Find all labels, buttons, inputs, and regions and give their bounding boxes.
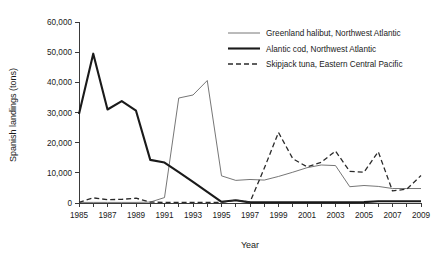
y-tick-label: 0 <box>67 199 72 208</box>
y-tick-label: 10,000 <box>47 169 72 178</box>
legend-label-1: Alantic cod, Northwest Atlantic <box>266 45 376 54</box>
series-line-1 <box>79 54 421 203</box>
x-axis-title: Year <box>241 240 259 250</box>
x-tick-label: 1999 <box>269 211 288 220</box>
x-tick-label: 2001 <box>298 211 317 220</box>
y-tick-label: 50,000 <box>47 48 72 57</box>
x-tick-label: 2007 <box>383 211 402 220</box>
x-tick-label: 1995 <box>212 211 231 220</box>
chart-figure: 010,00020,00030,00040,00050,00060,000 19… <box>0 0 441 255</box>
x-axis: 1985198719891991199319951997199920012003… <box>70 203 431 220</box>
x-tick-label: 2009 <box>412 211 431 220</box>
y-tick-label: 20,000 <box>47 139 72 148</box>
x-tick-label: 1987 <box>98 211 117 220</box>
y-tick-label: 30,000 <box>47 109 72 118</box>
y-tick-label: 40,000 <box>47 78 72 87</box>
x-tick-label: 1989 <box>127 211 146 220</box>
x-tick-label: 1993 <box>184 211 203 220</box>
x-tick-label: 1991 <box>155 211 174 220</box>
series-line-2 <box>79 132 421 202</box>
line-chart: 010,00020,00030,00040,00050,00060,000 19… <box>0 0 441 255</box>
x-tick-label: 2003 <box>326 211 345 220</box>
y-tick-label: 60,000 <box>47 18 72 27</box>
x-tick-label: 1997 <box>241 211 260 220</box>
chart-series-group <box>79 54 421 203</box>
chart-legend: Greenland halibut, Northwest AtlanticAla… <box>228 29 403 69</box>
x-tick-label: 1985 <box>70 211 89 220</box>
legend-label-2: Skipjack tuna, Eastern Central Pacific <box>266 60 403 69</box>
legend-label-0: Greenland halibut, Northwest Atlantic <box>266 29 401 38</box>
y-axis: 010,00020,00030,00040,00050,00060,000 <box>47 18 79 208</box>
y-axis-title: Spanish landings (tons) <box>8 68 18 162</box>
series-line-0 <box>79 81 421 203</box>
x-tick-label: 2005 <box>355 211 374 220</box>
